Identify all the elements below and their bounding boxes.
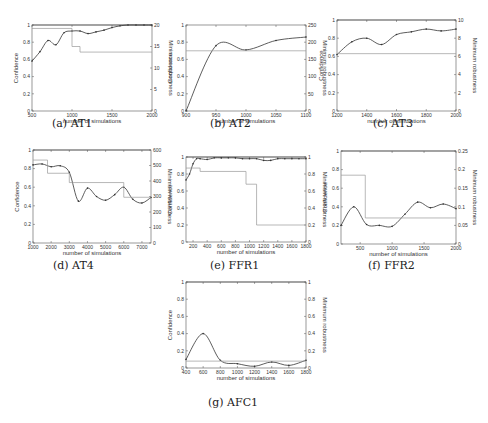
y-tick-label: 0.2 [177, 348, 184, 354]
y-tick-label: 0 [181, 365, 184, 371]
chart-g: 4006008001000120014001600180000.20.40.60… [0, 0, 488, 423]
y-tick-label: 1 [181, 279, 184, 285]
y-tick-label: 0.6 [177, 313, 184, 319]
caption-a: (a) AT1 [52, 117, 92, 130]
y-tick-label: 0.4 [177, 330, 184, 336]
data-point-marker [288, 365, 290, 367]
data-point-marker [237, 363, 239, 365]
caption-f: (f) FFR2 [368, 259, 415, 272]
y-right-tick-label: 1 [308, 279, 311, 285]
caption-g: (g) AFC1 [208, 396, 258, 409]
y-right-tick-label: 0 [308, 365, 311, 371]
y-right-tick-label: 0.4 [308, 330, 315, 336]
caption-c: (c) AT3 [373, 117, 413, 130]
y-tick-label: 0.8 [177, 296, 184, 302]
data-point-marker [185, 359, 187, 361]
y-right-tick-label: 0.8 [308, 296, 315, 302]
y-right-tick-label: 0.6 [308, 313, 315, 319]
caption-b: (b) AT2 [210, 117, 251, 130]
x-axis-label: number of simulations [217, 375, 276, 381]
caption-d: (d) AT4 [53, 259, 94, 272]
axes-box [186, 282, 306, 368]
x-tick-label: 600 [199, 369, 208, 375]
data-point-marker [254, 365, 256, 367]
y-right-tick-label: 0.2 [308, 348, 315, 354]
data-point-marker [202, 333, 204, 335]
caption-e: (e) FFR1 [210, 259, 259, 272]
x-tick-label: 1600 [283, 369, 294, 375]
y-axis-label: Confidence [167, 309, 173, 340]
y-right-axis-label: Minimum robustness [322, 297, 328, 352]
